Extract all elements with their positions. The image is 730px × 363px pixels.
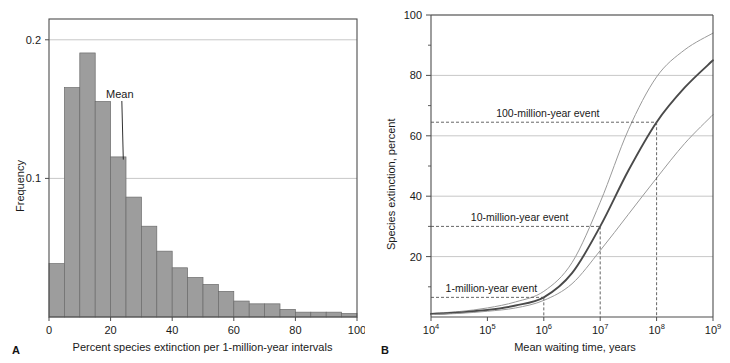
- figure-container: 0204060801000.10.2 Mean Percent species …: [0, 0, 730, 363]
- panel-b-xtick-label: 104: [423, 322, 439, 336]
- exponent: 6: [548, 322, 552, 331]
- panel-a-xtick-label: 100: [348, 324, 365, 336]
- exponent: 4: [435, 322, 439, 331]
- histogram-bar: [203, 284, 218, 317]
- histogram-bar: [311, 312, 326, 317]
- panel-a-ytick-label: 0.2: [26, 34, 41, 46]
- histogram-bar: [326, 312, 341, 317]
- histogram-bar: [218, 291, 233, 317]
- histogram-bar: [157, 251, 172, 317]
- histogram-bar: [49, 264, 64, 317]
- histogram-bar: [80, 53, 95, 317]
- panel-b-xtick-label: 108: [648, 322, 664, 336]
- panel-b-ytick-label: 60: [410, 130, 422, 142]
- panel-b-ytick-label: 100: [404, 9, 422, 21]
- histogram-bar: [64, 88, 79, 317]
- histogram-bar: [280, 309, 295, 317]
- panel-a-xtick-label: 40: [166, 324, 178, 336]
- panel-a-xtick-label: 20: [104, 324, 116, 336]
- curve-best-estimate: [431, 60, 713, 314]
- histogram-bar: [249, 304, 264, 317]
- panel-a-bars: [49, 53, 357, 317]
- panel-a-xtick-label: 80: [289, 324, 301, 336]
- panel-b-svg: 10410510610710810920406080100 1-million-…: [365, 0, 730, 363]
- marker-label-1-million-year-event: 1-million-year event: [446, 282, 538, 294]
- panel-a-xtick-label: 0: [46, 324, 52, 336]
- panel-b-ytick-label: 20: [410, 251, 422, 263]
- panel-b-ytick-label: 40: [410, 190, 422, 202]
- panel-b-xtick-label: 106: [536, 322, 552, 336]
- exponent: 8: [661, 322, 665, 331]
- histogram-bar: [188, 277, 203, 317]
- histogram-bar: [141, 226, 156, 317]
- histogram-bar: [234, 301, 249, 317]
- panel-b-y-axis-title: Species extinction, percent: [385, 119, 397, 250]
- histogram-bar: [265, 304, 280, 317]
- exponent: 7: [604, 322, 608, 331]
- panel-b-xtick-label: 105: [479, 322, 495, 336]
- marker-label-10-million-year-event: 10-million-year event: [471, 211, 569, 223]
- marker-label-100-million-year-event: 100-million-year event: [496, 107, 599, 119]
- exponent: 9: [717, 322, 721, 331]
- histogram-bar: [172, 268, 187, 317]
- panel-b-xtick-label: 107: [592, 322, 608, 336]
- histogram-bar: [295, 312, 310, 317]
- mean-leader-line: [122, 101, 123, 160]
- panel-a-y-axis-title: Frequency: [14, 160, 26, 212]
- panel-a-x-axis-title: Percent species extinction per 1-million…: [45, 341, 360, 353]
- panel-b-ytick-label: 80: [410, 69, 422, 81]
- histogram-bar: [111, 157, 126, 317]
- panel-a-histogram: 0204060801000.10.2 Mean Percent species …: [0, 0, 365, 363]
- panel-a-xtick-label: 60: [228, 324, 240, 336]
- exponent: 5: [491, 322, 495, 331]
- histogram-bar: [126, 197, 141, 317]
- panel-a-ytick-label: 0.1: [26, 172, 41, 184]
- panel-b-x-axis-title: Mean waiting time, years: [425, 341, 725, 353]
- panel-b-xtick-label: 109: [705, 322, 721, 336]
- histogram-bar: [95, 101, 110, 317]
- panel-b-letter: B: [381, 344, 389, 356]
- mean-annotation-label: Mean: [106, 88, 134, 100]
- panel-b-line-chart: 10410510610710810920406080100 1-million-…: [365, 0, 730, 363]
- panel-a-letter: A: [12, 344, 20, 356]
- panel-a-svg: 0204060801000.10.2 Mean: [0, 0, 365, 363]
